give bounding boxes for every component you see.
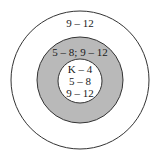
outer-ring-label: 9 – 12 xyxy=(40,17,120,29)
middle-ring-label: 5 – 8; 9 – 12 xyxy=(40,46,120,58)
inner-label-line-2: 5 – 8 xyxy=(58,75,102,87)
inner-circle-label: K – 4 5 – 8 9 – 12 xyxy=(58,63,102,99)
inner-label-line-3: 9 – 12 xyxy=(58,87,102,99)
inner-label-line-1: K – 4 xyxy=(58,63,102,75)
concentric-circle-diagram: 9 – 12 5 – 8; 9 – 12 K – 4 5 – 8 9 – 12 xyxy=(0,0,154,159)
